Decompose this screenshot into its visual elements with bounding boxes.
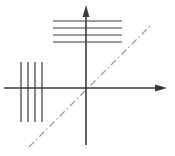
x-axis-label: x bbox=[0, 0, 2, 2]
figure-canvas: z x bbox=[0, 0, 175, 156]
wavefront-diagram: z x bbox=[0, 0, 175, 156]
figure-background bbox=[0, 0, 175, 156]
